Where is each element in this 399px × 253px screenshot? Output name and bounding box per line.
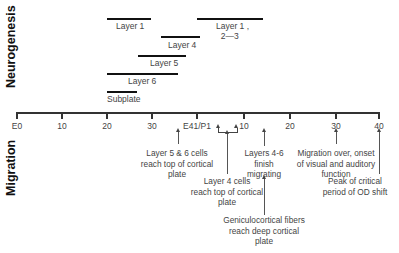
axis-tick-label: 20 bbox=[285, 121, 294, 131]
axis-tick-label: 10 bbox=[57, 121, 66, 131]
bracket-arrow-icon bbox=[236, 127, 237, 128]
axis-tick-label: E41/P1 bbox=[183, 121, 211, 131]
axis-tick bbox=[16, 112, 18, 119]
neurogenesis-bar bbox=[107, 91, 137, 93]
axis-tick bbox=[378, 112, 380, 119]
axis-tick bbox=[106, 112, 108, 119]
neurogenesis-bar-label: Layer 1 bbox=[116, 21, 144, 31]
arrow-icon bbox=[336, 131, 337, 144]
neurogenesis-bar bbox=[138, 55, 186, 57]
neurogenesis-bar bbox=[161, 36, 200, 38]
arrow-icon bbox=[227, 133, 228, 174]
bracket-arrow-icon bbox=[218, 127, 219, 128]
axis-tick bbox=[196, 112, 198, 119]
neurogenesis-bar-label: Layer 1 , 2—3 bbox=[216, 21, 249, 41]
annotation-text: Layer 4 cells reach top of cortical plat… bbox=[191, 176, 263, 208]
neurogenesis-bar bbox=[107, 73, 178, 75]
axis-line bbox=[17, 112, 380, 114]
neurogenesis-bar-label: Layer 6 bbox=[128, 76, 156, 86]
neurogenesis-bar-label: Layer 5 bbox=[150, 58, 178, 68]
axis-tick bbox=[61, 112, 63, 119]
arrow-icon bbox=[379, 131, 380, 174]
arrow-icon bbox=[264, 178, 265, 215]
axis-tick bbox=[243, 112, 245, 119]
axis-tick-label: 10 bbox=[239, 121, 248, 131]
neurogenesis-bar-label: Layer 4 bbox=[168, 40, 196, 50]
axis-tick-label: 20 bbox=[102, 121, 111, 131]
arrow-icon bbox=[178, 131, 179, 144]
neurogenesis-bar bbox=[107, 18, 151, 20]
annotation-text: Migration over, onset of visual and audi… bbox=[297, 148, 375, 180]
migration-label: Migration bbox=[4, 140, 18, 196]
neurogenesis-bar-label: Subplate bbox=[107, 94, 141, 104]
axis-tick-label: 30 bbox=[147, 121, 156, 131]
neurogenesis-label: Neurogenesis bbox=[4, 5, 18, 88]
axis-tick bbox=[289, 112, 291, 119]
axis-tick-label: E0 bbox=[12, 121, 22, 131]
annotation-text: Layer 5 & 6 cells reach top of cortical … bbox=[141, 148, 213, 180]
neurogenesis-bar bbox=[197, 18, 263, 20]
annotation-text: Peak of critical period of OD shift bbox=[323, 176, 388, 197]
axis-tick bbox=[335, 112, 337, 119]
annotation-text: Geniculocortical fibers reach deep corti… bbox=[223, 215, 305, 247]
arrow-icon bbox=[264, 131, 265, 146]
axis-tick bbox=[151, 112, 153, 119]
